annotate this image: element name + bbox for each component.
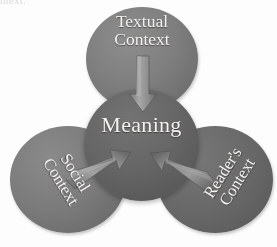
circle-texture-overlay	[84, 89, 199, 201]
meaning-diagram-figure: ntext.	[0, 0, 277, 247]
cutoff-running-text: ntext.	[0, 0, 26, 6]
circle-meaning	[84, 89, 199, 201]
